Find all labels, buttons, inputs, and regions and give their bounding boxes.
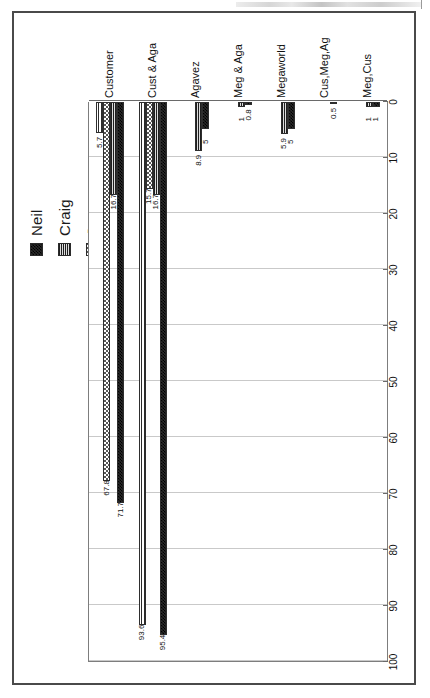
bar-slot: 1 (373, 102, 380, 661)
bar-value-label: 1 (372, 117, 380, 121)
bar-craig[interactable] (238, 102, 245, 107)
category-label: Megaworld (275, 44, 287, 98)
chart-frame: Neil Craig Jesse Jason 5.767.816.77 (12, 11, 416, 685)
category-label: Cus,Meg,Ag (318, 37, 330, 98)
bar-slot (359, 102, 366, 661)
bar-slot (309, 102, 316, 661)
bar-slot: 8.9 (195, 102, 202, 661)
bar-neil[interactable] (117, 102, 124, 503)
category-label: Customer (103, 50, 115, 98)
value-tick-label: 70 (388, 488, 399, 499)
bar-group: 5.767.816.771.7 (89, 102, 132, 661)
bar-slot: 5 (202, 102, 209, 661)
bar-group: 11 (344, 102, 387, 661)
value-tick-label: 50 (388, 376, 399, 387)
legend-swatch-neil (30, 243, 43, 256)
bar-slot (181, 102, 188, 661)
bar-craig[interactable] (366, 102, 373, 107)
bar-jason[interactable] (96, 102, 103, 133)
category-label: Cust & Aga (146, 43, 158, 98)
bar-group-bars: 0.5 (302, 102, 345, 661)
bar-slot: 93.6 (139, 102, 146, 661)
bar-slot: 16.7 (153, 102, 160, 661)
bar-slot (224, 102, 231, 661)
legend-swatch-craig (58, 243, 71, 256)
bar-value-label: 5 (202, 140, 210, 144)
value-axis: 0102030405060708090100 (388, 102, 410, 662)
bar-neil[interactable] (245, 102, 252, 105)
bar-value-label: 0.8 (245, 109, 253, 120)
value-tick-label: 90 (388, 600, 399, 611)
bar-slot: 67.8 (103, 102, 110, 661)
rotated-chart-canvas: Neil Craig Jesse Jason 5.767.816.77 (20, 20, 412, 680)
bar-slot (316, 102, 323, 661)
category-label: Agavez (189, 61, 201, 98)
bar-value-label: 71.7 (117, 502, 125, 518)
category-label: Meg,Cus (361, 54, 373, 98)
bar-slot (352, 102, 359, 661)
scan-artifact (236, 2, 422, 7)
bar-slot (267, 102, 274, 661)
bar-slot: 0.8 (245, 102, 252, 661)
bar-neil[interactable] (160, 102, 167, 635)
value-tick-label: 20 (388, 208, 399, 219)
bar-slot: 16.7 (110, 102, 117, 661)
bar-jason[interactable] (139, 102, 146, 625)
bar-group-bars: 8.95 (174, 102, 217, 661)
bar-group-bars: 10.8 (217, 102, 260, 661)
legend-label-neil: Neil (28, 209, 45, 236)
scan-edge-mark (421, 0, 422, 9)
category-axis: CustomerCust & AgaAgavezMeg & AgaMegawor… (88, 16, 388, 102)
bar-slot (231, 102, 238, 661)
bar-value-label: 95.4 (159, 635, 167, 651)
bar-slot: 5.7 (96, 102, 103, 661)
bar-neil[interactable] (288, 102, 295, 129)
bar-jesse[interactable] (103, 102, 110, 481)
value-tick-label: 40 (388, 320, 399, 331)
value-tick-label: 80 (388, 544, 399, 555)
bar-slot: 15.7 (146, 102, 153, 661)
bar-group: 93.615.716.795.4 (132, 102, 175, 661)
bar-slot (323, 102, 330, 661)
bar-value-label: 0.5 (330, 108, 338, 119)
value-tick-label: 60 (388, 432, 399, 443)
bar-craig[interactable] (281, 102, 288, 134)
value-tick-label: 100 (388, 654, 399, 671)
bar-group: 8.95 (174, 102, 217, 661)
bar-slot (274, 102, 281, 661)
bar-craig[interactable] (110, 102, 117, 195)
legend-item-craig[interactable]: Craig (56, 136, 73, 256)
bar-neil[interactable] (202, 102, 209, 129)
category-label: Meg & Aga (232, 44, 244, 98)
bar-slot: 95.4 (160, 102, 167, 661)
legend-label-craig: Craig (56, 199, 73, 236)
bar-jesse[interactable] (146, 102, 153, 189)
bar-neil[interactable] (330, 102, 337, 104)
value-tick-label: 0 (388, 99, 399, 105)
bar-group-bars: 93.615.716.795.4 (132, 102, 175, 661)
bar-slot: 1 (366, 102, 373, 661)
bar-group: 0.5 (302, 102, 345, 661)
bar-rows: 5.767.816.771.793.615.716.795.48.9510.85… (89, 102, 387, 661)
bar-group-bars: 5.767.816.771.7 (89, 102, 132, 661)
plot-area: 5.767.816.771.793.615.716.795.48.9510.85… (88, 102, 388, 662)
bar-slot: 0.5 (330, 102, 337, 661)
bar-group-bars: 5.95 (259, 102, 302, 661)
legend-item-neil[interactable]: Neil (28, 136, 45, 256)
bar-slot: 71.7 (117, 102, 124, 661)
bar-slot (188, 102, 195, 661)
bar-craig[interactable] (153, 102, 160, 195)
bar-value-label: 5 (287, 140, 295, 144)
value-tick-label: 30 (388, 264, 399, 275)
bar-group: 5.95 (259, 102, 302, 661)
bar-neil[interactable] (373, 102, 380, 107)
chart-page: Neil Craig Jesse Jason 5.767.816.77 (0, 0, 430, 698)
bar-slot: 5 (288, 102, 295, 661)
value-tick-label: 10 (388, 152, 399, 163)
bar-group-bars: 11 (344, 102, 387, 661)
bar-slot: 1 (238, 102, 245, 661)
bar-group: 10.8 (217, 102, 260, 661)
bar-slot: 5.9 (281, 102, 288, 661)
